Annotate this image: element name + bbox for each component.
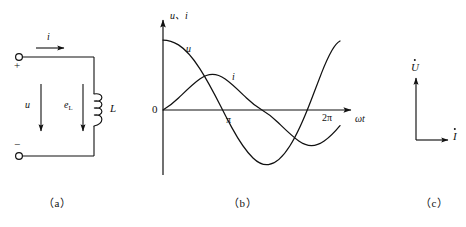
x-axis-label: ωt	[355, 114, 365, 124]
panel-c-phasor	[416, 78, 448, 140]
phasor-U-dot-icon	[414, 59, 416, 61]
current-label-i: i	[47, 32, 50, 42]
caption-panel-a: （a）	[43, 194, 71, 210]
inductor-coil-symbol	[94, 94, 102, 126]
figure-canvas	[0, 0, 466, 227]
inductor-label-L: L	[110, 103, 116, 114]
phasor-U-text: U	[411, 61, 419, 73]
phasor-I-text: I	[453, 130, 457, 142]
x-tick-pi: π	[226, 115, 231, 125]
caption-panel-c: （c）	[420, 194, 448, 210]
panel-b-plot	[163, 20, 351, 175]
phasor-label-I: I	[453, 131, 457, 142]
figure-root: i + − u eL L u、i 0 π 2π ωt u i U I （a） （…	[0, 0, 466, 227]
phasor-label-U: U	[411, 62, 419, 73]
phasor-I-dot-icon	[454, 128, 456, 130]
emf-label-e-l: eL	[64, 100, 73, 111]
terminal-bottom-node	[16, 153, 23, 160]
voltage-label-u: u	[25, 100, 30, 110]
x-tick-2pi: 2π	[322, 113, 332, 123]
plot-origin-label: 0	[152, 104, 158, 115]
terminal-minus-sign: −	[14, 139, 20, 150]
curve-label-u: u	[186, 44, 191, 54]
emf-label-subscript: L	[68, 104, 72, 111]
terminal-plus-sign: +	[14, 60, 20, 71]
caption-panel-b: （b）	[228, 194, 257, 210]
curve-label-i: i	[232, 72, 235, 82]
y-axis-label: u、i	[170, 11, 188, 21]
